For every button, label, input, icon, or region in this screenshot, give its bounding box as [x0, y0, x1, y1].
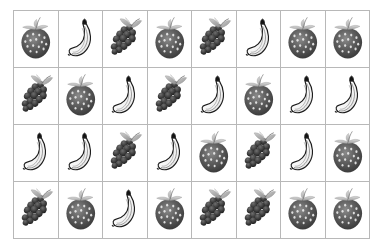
fruit-cell — [237, 11, 282, 68]
fruit-cell — [281, 182, 326, 239]
strawberry-icon — [281, 182, 325, 238]
fruit-cell — [14, 68, 59, 125]
strawberry-icon — [326, 11, 370, 67]
strawberry-icon — [281, 11, 325, 67]
grapes-icon — [237, 125, 281, 181]
fruit-cell — [192, 182, 237, 239]
fruit-cell — [148, 182, 193, 239]
banana-icon — [281, 68, 325, 124]
grapes-icon — [14, 68, 58, 124]
fruit-cell — [192, 68, 237, 125]
fruit-cell — [103, 182, 148, 239]
fruit-cell — [326, 125, 371, 182]
fruit-cell — [192, 11, 237, 68]
fruit-cell — [59, 11, 104, 68]
grapes-icon — [148, 68, 192, 124]
strawberry-icon — [192, 125, 236, 181]
strawberry-icon — [148, 11, 192, 67]
banana-icon — [103, 182, 147, 238]
fruit-cell — [14, 182, 59, 239]
fruit-cell — [14, 11, 59, 68]
banana-icon — [237, 11, 281, 67]
grapes-icon — [237, 182, 281, 238]
fruit-cell — [103, 11, 148, 68]
grapes-icon — [192, 11, 236, 67]
fruit-cell — [59, 125, 104, 182]
fruit-cell — [103, 125, 148, 182]
fruit-cell — [326, 68, 371, 125]
fruit-cell — [326, 11, 371, 68]
fruit-cell — [281, 68, 326, 125]
fruit-cell — [59, 182, 104, 239]
banana-icon — [59, 11, 103, 67]
fruit-cell — [281, 125, 326, 182]
banana-icon — [281, 125, 325, 181]
fruit-cell — [148, 68, 193, 125]
fruit-cell — [326, 182, 371, 239]
banana-icon — [192, 68, 236, 124]
fruit-cell — [237, 68, 282, 125]
banana-icon — [148, 125, 192, 181]
fruit-cell — [281, 11, 326, 68]
strawberry-icon — [59, 182, 103, 238]
grapes-icon — [103, 125, 147, 181]
fruit-grid — [13, 10, 370, 239]
strawberry-icon — [237, 68, 281, 124]
fruit-cell — [103, 68, 148, 125]
banana-icon — [326, 68, 370, 124]
strawberry-icon — [14, 11, 58, 67]
grapes-icon — [192, 182, 236, 238]
banana-icon — [103, 68, 147, 124]
fruit-cell — [237, 182, 282, 239]
fruit-cell — [59, 68, 104, 125]
fruit-cell — [192, 125, 237, 182]
fruit-cell — [237, 125, 282, 182]
grapes-icon — [103, 11, 147, 67]
fruit-cell — [14, 125, 59, 182]
strawberry-icon — [59, 68, 103, 124]
fruit-cell — [148, 11, 193, 68]
grapes-icon — [14, 182, 58, 238]
banana-icon — [59, 125, 103, 181]
fruit-cell — [148, 125, 193, 182]
strawberry-icon — [326, 182, 370, 238]
banana-icon — [14, 125, 58, 181]
strawberry-icon — [326, 125, 370, 181]
strawberry-icon — [148, 182, 192, 238]
